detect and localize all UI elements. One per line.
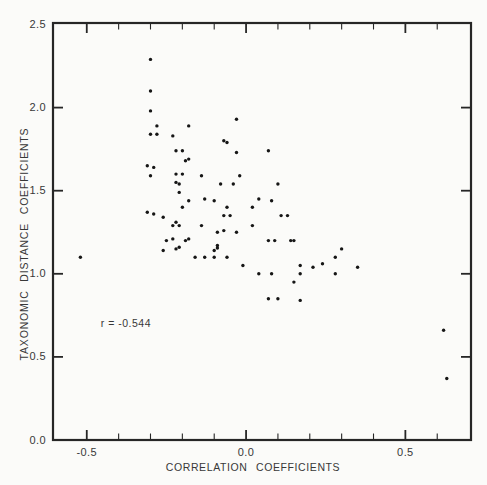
data-point: [238, 174, 241, 177]
data-point: [222, 214, 225, 217]
data-point: [321, 262, 324, 265]
data-point: [225, 206, 228, 209]
data-point: [187, 237, 190, 240]
data-point: [213, 249, 216, 252]
data-point: [149, 89, 152, 92]
data-point: [356, 266, 359, 269]
data-point: [445, 377, 448, 380]
data-point: [181, 206, 184, 209]
data-point: [213, 199, 216, 202]
data-point: [257, 272, 260, 275]
data-point: [225, 256, 228, 259]
data-point: [228, 214, 231, 217]
data-point: [187, 124, 190, 127]
data-point: [235, 118, 238, 121]
data-point: [184, 239, 187, 242]
data-point: [311, 266, 314, 269]
data-point: [79, 256, 82, 259]
plot-frame: [53, 23, 471, 440]
data-point: [174, 149, 177, 152]
data-point: [299, 272, 302, 275]
data-point: [149, 58, 152, 61]
data-point: [222, 229, 225, 232]
data-point: [171, 224, 174, 227]
x-tick-label: 0.0: [238, 446, 255, 458]
data-point: [279, 214, 282, 217]
x-tick-label: -0.5: [76, 446, 97, 458]
data-point: [155, 124, 158, 127]
data-point: [193, 256, 196, 259]
y-tick-label: 0.0: [30, 434, 47, 446]
data-point: [276, 182, 279, 185]
data-point: [251, 224, 254, 227]
data-point: [152, 212, 155, 215]
data-point: [225, 141, 228, 144]
data-point: [174, 172, 177, 175]
x-axis-title: CORRELATION COEFFICIENTS: [166, 461, 340, 473]
data-point: [340, 247, 343, 250]
data-point: [273, 239, 276, 242]
data-point: [203, 256, 206, 259]
data-point: [222, 139, 225, 142]
data-point: [235, 151, 238, 154]
data-point: [257, 197, 260, 200]
y-tick-label: 2.5: [30, 18, 47, 30]
data-point: [299, 264, 302, 267]
data-point: [251, 206, 254, 209]
data-point: [178, 191, 181, 194]
data-point: [178, 182, 181, 185]
data-point: [178, 246, 181, 249]
data-point: [171, 134, 174, 137]
data-point: [241, 264, 244, 267]
data-point: [171, 237, 174, 240]
data-point: [165, 239, 168, 242]
data-point: [181, 149, 184, 152]
data-point: [334, 256, 337, 259]
data-point: [149, 174, 152, 177]
data-point: [152, 166, 155, 169]
scatter-plot-canvas: -0.50.00.50.00.51.01.52.02.5: [0, 0, 487, 485]
data-point: [178, 224, 181, 227]
scatter-figure: -0.50.00.50.00.51.01.52.02.5 TAXONOMIC D…: [0, 0, 487, 485]
x-tick-label: 0.5: [397, 446, 414, 458]
data-point: [203, 197, 206, 200]
data-point: [149, 133, 152, 136]
data-point: [270, 272, 273, 275]
data-point: [187, 199, 190, 202]
y-tick-label: 0.5: [30, 350, 47, 362]
data-point: [232, 182, 235, 185]
data-point: [155, 133, 158, 136]
data-point: [184, 159, 187, 162]
data-point: [181, 172, 184, 175]
data-point: [162, 249, 165, 252]
data-point: [213, 256, 216, 259]
data-point: [442, 329, 445, 332]
data-point: [216, 246, 219, 249]
data-point: [267, 149, 270, 152]
data-point: [289, 239, 292, 242]
data-point: [292, 239, 295, 242]
y-tick-label: 1.5: [30, 184, 47, 196]
y-axis-title: TAXONOMIC DISTANCE COEFFICIENTS: [18, 128, 30, 361]
correlation-annotation: r = -0.544: [101, 317, 151, 329]
data-point: [299, 299, 302, 302]
y-tick-label: 1.0: [30, 267, 47, 279]
data-point: [162, 216, 165, 219]
data-point: [200, 174, 203, 177]
data-point: [334, 272, 337, 275]
y-tick-label: 2.0: [30, 101, 47, 113]
data-point: [286, 214, 289, 217]
data-point: [235, 231, 238, 234]
data-point: [219, 182, 222, 185]
data-point: [267, 297, 270, 300]
data-point: [149, 109, 152, 112]
data-point: [174, 181, 177, 184]
data-point: [216, 231, 219, 234]
data-point: [276, 297, 279, 300]
data-point: [267, 239, 270, 242]
data-point: [292, 280, 295, 283]
data-point: [270, 199, 273, 202]
data-point: [174, 221, 177, 224]
data-point: [187, 157, 190, 160]
data-point: [146, 164, 149, 167]
